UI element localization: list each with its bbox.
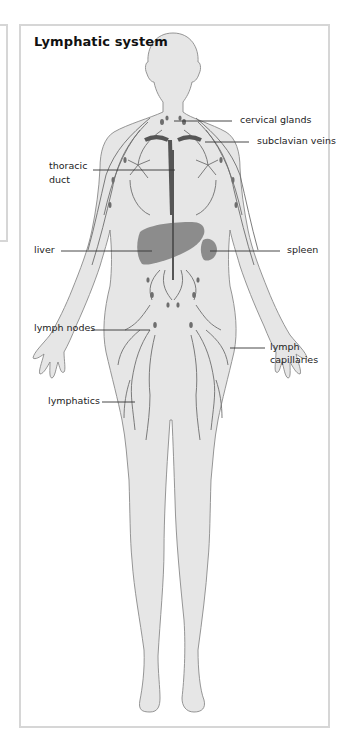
label-subclavian-veins: subclavian veins [257, 135, 336, 147]
label-cervical-glands: cervical glands [240, 114, 311, 126]
label-lymphatics: lymphatics [48, 395, 100, 407]
label-liver: liver [34, 244, 55, 256]
label-thoracic-duct-line2: duct [49, 174, 70, 186]
body-illustration [0, 0, 346, 743]
label-spleen: spleen [287, 244, 318, 256]
label-thoracic-duct-line1: thoracic [49, 160, 87, 172]
label-lymph-nodes: lymph nodes [34, 322, 95, 334]
diagram-title: Lymphatic system [34, 34, 168, 49]
label-lymph-capillaries-line2: capillaries [270, 354, 318, 366]
label-lymph-capillaries-line1: lymph [270, 341, 300, 353]
